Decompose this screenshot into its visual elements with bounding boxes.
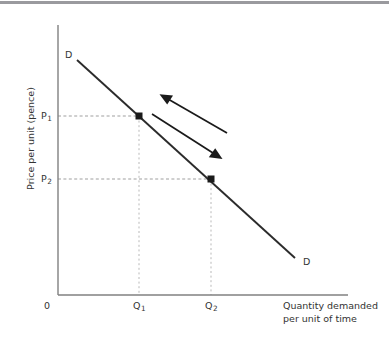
y-tick-p1-sub: 1 <box>47 114 52 123</box>
point-marker-q2p2 <box>208 176 215 183</box>
arrow-up-left <box>160 94 228 133</box>
y-tick-label-p2: P2 <box>41 173 52 185</box>
x-axis-label-line2: per unit of time <box>283 313 378 326</box>
curve-label-top: D <box>65 49 72 61</box>
x-tick-label-q1: Q1 <box>133 300 145 312</box>
y-axis-label: Price per unit (pence) <box>25 64 36 214</box>
y-tick-p2-text: P <box>41 173 47 184</box>
point-marker-q1p1 <box>136 113 143 120</box>
figure-root: Price per unit (pence) Quantity demanded… <box>0 0 389 341</box>
curve-label-bottom: D <box>303 256 310 268</box>
x-tick-label-q2: Q2 <box>205 300 217 312</box>
y-tick-label-p1: P1 <box>41 110 52 122</box>
demand-curve-diagram <box>0 0 389 341</box>
x-tick-q2-sub: 2 <box>213 304 218 313</box>
x-tick-q2-text: Q <box>205 300 213 311</box>
x-tick-q1-sub: 1 <box>141 304 146 313</box>
x-axis-label-line1: Quantity demanded <box>283 300 378 313</box>
y-tick-p1-text: P <box>41 110 47 121</box>
origin-label: 0 <box>44 300 50 312</box>
x-axis-label: Quantity demanded per unit of time <box>283 300 378 325</box>
x-tick-q1-text: Q <box>133 300 141 311</box>
y-tick-p2-sub: 2 <box>47 177 52 186</box>
demand-curve-line <box>77 60 295 258</box>
